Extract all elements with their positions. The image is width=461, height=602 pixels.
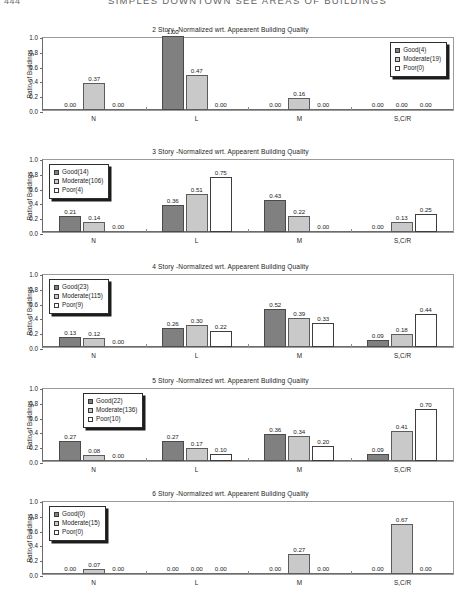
bar-moderate: 0.08	[83, 455, 105, 461]
x-tick-mark	[248, 344, 249, 347]
bar-poor: 0.75	[210, 177, 232, 233]
bar-poor: 0.20	[312, 446, 334, 461]
x-axis-label: N	[91, 466, 96, 473]
document-page: 444 SIMPLES DOWNTOWN SEE AREAS OF BUILDI…	[0, 0, 461, 602]
bar-value-label: 1.00	[167, 28, 179, 35]
bar-value-label: 0.36	[167, 197, 179, 204]
bar-good: 0.27	[59, 441, 81, 461]
y-tick-mark	[40, 234, 43, 235]
legend-item: Moderate(106)	[54, 177, 103, 186]
bar-value-label: 0.21	[64, 208, 76, 215]
bar-poor: 0.44	[415, 314, 437, 347]
legend-label: Moderate(19)	[403, 56, 441, 62]
chart-3: 4 Story -Normalized wrt. Appearent Build…	[0, 263, 461, 363]
y-tick-label: 0.0	[29, 345, 38, 352]
legend-label: Good(14)	[62, 169, 89, 175]
bar-value-label: 0.27	[167, 433, 179, 440]
plot-box: 0.270.080.000.270.170.100.360.340.200.09…	[42, 388, 454, 462]
x-tick-mark	[351, 571, 352, 574]
bar-group: 0.000.160.00	[248, 38, 351, 110]
x-axis-label: M	[297, 115, 302, 122]
bar-good: 0.27	[162, 441, 184, 461]
x-tick-mark	[146, 229, 147, 232]
y-axis-ticks: 1.00.80.60.40.20.0	[18, 501, 40, 575]
legend-label: Good(23)	[62, 284, 89, 290]
bar-value-label: 0.25	[420, 206, 432, 213]
bar-value-label: 0.00	[317, 223, 329, 230]
bar-group: 0.000.270.00	[248, 502, 351, 574]
y-axis-ticks: 1.00.80.60.40.20.0	[18, 274, 40, 348]
y-tick-label: 0.0	[29, 459, 38, 466]
y-tick-label: 0.2	[29, 215, 38, 222]
plot-area: Ratio of Buildings1.00.80.60.40.20.00.13…	[0, 274, 461, 348]
bar-value-label: 0.30	[191, 317, 203, 324]
chart-5: 6 Story -Normalized wrt. Appearent Build…	[0, 490, 461, 590]
bar-good: 0.43	[264, 200, 286, 232]
bar-value-label: 0.13	[396, 214, 408, 221]
x-tick-mark	[351, 344, 352, 347]
x-axis-label: L	[195, 115, 199, 122]
bar-group: 0.360.510.75	[146, 160, 249, 232]
bar-good: 1.00	[162, 36, 184, 110]
y-tick-label: 0.8	[29, 170, 38, 177]
y-axis-ticks: 1.00.80.60.40.20.0	[18, 37, 40, 111]
y-axis-ticks: 1.00.80.60.40.20.0	[18, 388, 40, 462]
legend-label: Moderate(106)	[62, 178, 103, 184]
legend-item: Good(14)	[54, 168, 103, 177]
bar-moderate: 0.07	[83, 569, 105, 574]
legend-label: Poor(10)	[96, 416, 121, 422]
legend-swatch-good-icon	[54, 285, 59, 290]
y-tick-label: 0.4	[29, 200, 38, 207]
legend-swatch-good-icon	[88, 399, 93, 404]
y-tick-label: 1.0	[29, 271, 38, 278]
bar-value-label: 0.00	[269, 565, 281, 572]
y-tick-label: 0.6	[29, 414, 38, 421]
bar-poor: 0.70	[415, 409, 437, 461]
bar-good: 0.09	[367, 454, 389, 461]
bar-moderate: 0.12	[83, 338, 105, 347]
page-number: 444	[4, 0, 21, 6]
bar-value-label: 0.00	[420, 101, 432, 108]
plot-area: Ratio of Buildings1.00.80.60.40.20.00.00…	[0, 501, 461, 575]
x-tick-mark	[248, 229, 249, 232]
x-axis-label: L	[195, 352, 199, 359]
y-tick-label: 0.0	[29, 230, 38, 237]
bar-group: 0.090.410.70	[351, 389, 454, 461]
legend-item: Poor(9)	[54, 301, 103, 310]
plot-area: Ratio of Buildings1.00.80.60.40.20.00.27…	[0, 388, 461, 462]
plot-box: 0.000.370.001.000.470.000.000.160.000.00…	[42, 37, 454, 111]
legend-item: Poor(10)	[88, 415, 137, 424]
bar-value-label: 0.20	[317, 438, 329, 445]
legend-swatch-moderate-icon	[54, 521, 59, 526]
bar-value-label: 0.16	[293, 90, 305, 97]
x-tick-mark	[248, 458, 249, 461]
x-axis-label: L	[195, 579, 199, 586]
legend-item: Good(22)	[88, 397, 137, 406]
legend-label: Poor(4)	[62, 187, 83, 193]
chart-legend: Good(14)Moderate(106)Poor(4)	[49, 164, 109, 199]
bar-moderate: 0.34	[288, 436, 310, 461]
bar-value-label: 0.47	[191, 67, 203, 74]
legend-swatch-poor-icon	[395, 66, 400, 71]
bar-value-label: 0.00	[191, 565, 203, 572]
legend-swatch-good-icon	[54, 512, 59, 517]
x-tick-mark	[351, 229, 352, 232]
bar-value-label: 0.07	[88, 561, 100, 568]
y-tick-label: 0.4	[29, 78, 38, 85]
chart-2: 3 Story -Normalized wrt. Appearent Build…	[0, 148, 461, 248]
x-tick-mark	[146, 107, 147, 110]
chart-title: 5 Story -Normalized wrt. Appearent Build…	[0, 377, 461, 384]
bar-value-label: 0.00	[317, 101, 329, 108]
y-tick-label: 0.8	[29, 399, 38, 406]
bar-group: 0.000.130.25	[351, 160, 454, 232]
bar-value-label: 0.70	[420, 401, 432, 408]
running-header-title: SIMPLES DOWNTOWN SEE AREAS OF BUILDINGS	[108, 0, 387, 6]
bar-value-label: 0.10	[215, 446, 227, 453]
bar-group: 0.360.340.20	[248, 389, 351, 461]
legend-swatch-poor-icon	[54, 188, 59, 193]
bar-value-label: 0.00	[215, 565, 227, 572]
y-tick-mark	[40, 349, 43, 350]
bar-moderate: 0.39	[288, 318, 310, 347]
x-tick-mark	[146, 458, 147, 461]
y-tick-label: 0.8	[29, 512, 38, 519]
